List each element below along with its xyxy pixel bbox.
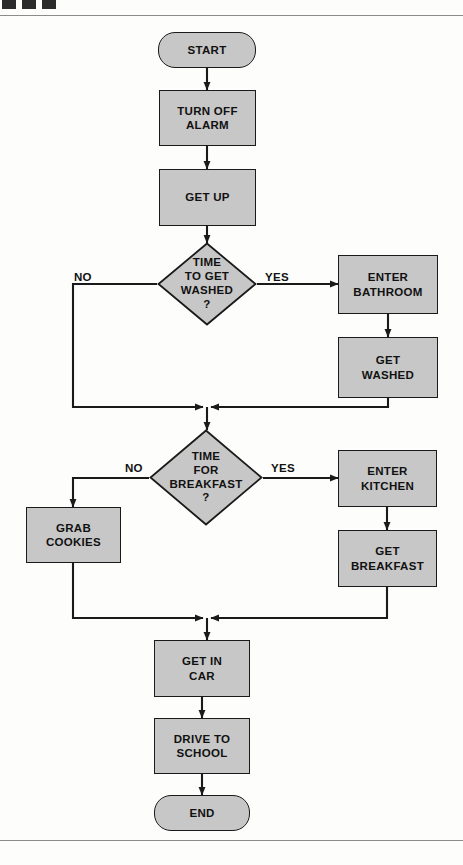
- node-enter-bathroom[interactable]: ENTER BATHROOM: [338, 255, 438, 314]
- diamond-shape-washed: [157, 242, 257, 326]
- node-start[interactable]: START: [158, 32, 256, 68]
- diamond-shape-breakfast: [149, 429, 263, 526]
- node-end[interactable]: END: [154, 795, 250, 831]
- node-get-up[interactable]: GET UP: [159, 169, 256, 226]
- node-get-washed[interactable]: GET WASHED: [338, 337, 438, 398]
- node-time-for-breakfast[interactable]: TIME FOR BREAKFAST ?: [149, 429, 263, 526]
- node-time-to-get-washed[interactable]: TIME TO GET WASHED ?: [157, 242, 257, 326]
- edge-label-washed-yes: YES: [265, 271, 289, 283]
- node-drive-to-school[interactable]: DRIVE TO SCHOOL: [154, 718, 250, 774]
- flowchart-page: START TURN OFF ALARM GET UP TIME TO GET …: [0, 0, 463, 865]
- edge-label-breakfast-no: NO: [125, 462, 143, 474]
- node-grab-cookies[interactable]: GRAB COOKIES: [26, 507, 121, 563]
- node-get-in-car[interactable]: GET IN CAR: [154, 640, 250, 697]
- node-turn-off-alarm[interactable]: TURN OFF ALARM: [159, 90, 256, 146]
- node-get-breakfast[interactable]: GET BREAKFAST: [338, 530, 437, 587]
- edge-label-washed-no: NO: [74, 271, 92, 283]
- node-enter-kitchen[interactable]: ENTER KITCHEN: [338, 450, 437, 507]
- edge-label-breakfast-yes: YES: [271, 462, 295, 474]
